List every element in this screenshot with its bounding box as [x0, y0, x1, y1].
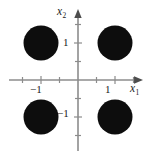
y-axis-label: x2 [57, 6, 66, 18]
top-left-disk [24, 26, 59, 61]
figure-container: −1 1 1 −1 x1 x2 [0, 0, 150, 154]
y-axis-tick-label-pos1: 1 [63, 37, 69, 48]
plot-canvas [0, 0, 150, 154]
top-right-disk [98, 26, 133, 61]
bottom-right-disk [98, 100, 133, 135]
x-axis-label-subscript: 1 [135, 88, 139, 97]
y-axis-tick-label-neg1: −1 [57, 108, 69, 119]
bottom-left-disk [24, 100, 59, 135]
x-axis-label: x1 [130, 83, 139, 95]
y-axis-arrowhead [74, 9, 81, 18]
x-axis-tick-label-pos1: 1 [105, 84, 111, 95]
x-axis-tick-label-neg1: −1 [30, 84, 42, 95]
y-axis-label-subscript: 2 [62, 11, 66, 20]
